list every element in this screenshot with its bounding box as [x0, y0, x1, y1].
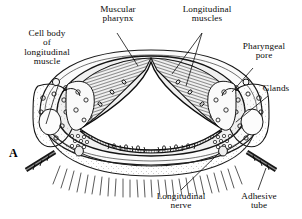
- label-pharyngeal-pore: Pharyngeal pore: [229, 42, 299, 61]
- adhesive-tube-right: [247, 152, 276, 170]
- label-longitudinal-muscles-line2: muscles: [168, 14, 246, 23]
- label-muscular-pharynx: Muscular pharynx: [82, 5, 154, 24]
- label-pharyngeal-pore-line2: pore: [229, 51, 299, 60]
- adhesive-tube-left: [26, 152, 55, 170]
- label-glands-line1: Glands: [252, 84, 300, 93]
- label-adhesive-tube: Adhesive tube: [228, 192, 290, 211]
- leader-adhesive-tube: [258, 168, 266, 190]
- longitudinal-nerve-right: [219, 146, 228, 156]
- label-adhesive-tube-line2: tube: [228, 201, 290, 210]
- label-cell-body-line4: muscle: [8, 57, 86, 66]
- label-longitudinal-muscles: Longitudinal muscles: [168, 5, 246, 24]
- label-muscular-pharynx-line2: pharynx: [82, 14, 154, 23]
- label-longitudinal-nerve: Longitudinal nerve: [140, 192, 222, 211]
- label-cell-body: Cell body of longitudinal muscle: [8, 29, 86, 67]
- panel-letter: A: [9, 146, 18, 161]
- label-longitudinal-nerve-line2: nerve: [140, 201, 222, 210]
- longitudinal-nerve-left: [75, 146, 84, 156]
- label-glands: Glands: [252, 84, 300, 93]
- pharynx-cross-section-figure: Cell body of longitudinal muscle Muscula…: [0, 0, 302, 219]
